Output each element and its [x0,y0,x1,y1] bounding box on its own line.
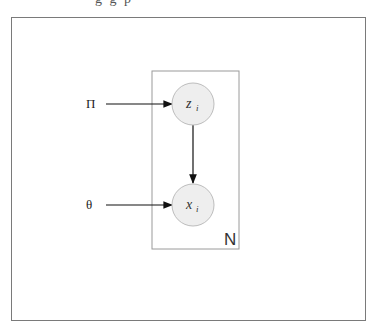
graphical-model-diagram: N z i x i Π θ [0,0,378,332]
input-label-theta: θ [86,197,92,212]
node-z[interactable]: z i [172,83,214,125]
node-x[interactable]: x i [172,184,214,226]
input-label-pi: Π [86,96,95,111]
plate-label: N [224,230,236,249]
node-x-label: x [185,197,193,212]
node-z-label: z [185,96,192,111]
